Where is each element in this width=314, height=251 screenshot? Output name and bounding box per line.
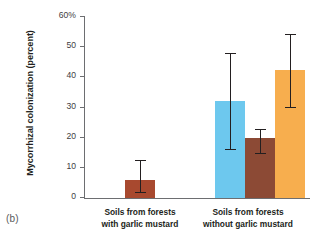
y-tick-40: 40: [80, 76, 85, 77]
y-axis-title: Mycorrhizal colonization (percent): [25, 3, 35, 203]
x-axis-line: [84, 198, 310, 199]
y-tick-label-20: 20: [66, 131, 76, 141]
y-tick-label-50: 50: [66, 40, 76, 50]
error-bar-g0-0: [140, 160, 141, 193]
error-bar-cap-bottom: [225, 149, 236, 150]
y-tick-label-40: 40: [66, 70, 76, 80]
error-bar-g1-0: [230, 53, 231, 150]
error-bar-cap-bottom: [255, 153, 266, 154]
y-tick-label-10: 10: [66, 161, 76, 171]
y-tick-50: 50: [80, 46, 85, 47]
x-category-label-1-line-1: without garlic mustard: [182, 219, 314, 231]
y-tick-20: 20: [80, 137, 85, 138]
error-bar-cap-top: [135, 160, 146, 161]
error-bar-cap-top: [285, 34, 296, 35]
x-category-label-1-line-0: Soils from forests: [182, 207, 314, 219]
error-bar-cap-top: [255, 129, 266, 130]
error-bar-g1-1: [260, 129, 261, 155]
plot-area: 0102030405060%: [84, 17, 310, 198]
y-tick-label-30: 30: [66, 101, 76, 111]
y-tick-0: 0: [80, 197, 85, 198]
error-bar-cap-bottom: [135, 192, 146, 193]
y-tick-10: 10: [80, 167, 85, 168]
figure-panel-b: (b) Mycorrhizal colonization (percent) 0…: [0, 0, 314, 251]
error-bar-cap-bottom: [285, 107, 296, 108]
x-category-label-1: Soils from forests without garlic mustar…: [182, 207, 314, 230]
y-tick-60: 60%: [80, 16, 85, 17]
y-tick-label-60: 60%: [59, 10, 76, 20]
error-bar-cap-top: [225, 53, 236, 54]
error-bar-g1-2: [290, 34, 291, 108]
y-tick-label-0: 0: [71, 191, 76, 201]
y-tick-30: 30: [80, 107, 85, 108]
y-axis-line: [84, 17, 85, 198]
panel-label: (b): [6, 213, 19, 224]
